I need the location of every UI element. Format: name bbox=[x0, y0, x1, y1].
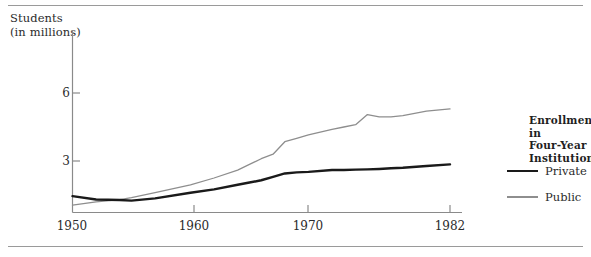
legend-title: Enrollment in Four-Year Institutions bbox=[529, 114, 591, 164]
series-line-public bbox=[73, 109, 451, 205]
legend-swatch-private-icon bbox=[507, 170, 538, 173]
legend-label-public: Public bbox=[545, 190, 581, 204]
series-line-private bbox=[73, 164, 451, 200]
legend-label-private: Private bbox=[545, 164, 587, 178]
plot-area bbox=[0, 0, 591, 257]
legend-swatch-public-icon bbox=[507, 196, 538, 197]
enrollment-chart-figure: Students (in millions) 6 3 1950 1960 197… bbox=[0, 0, 591, 257]
legend: Enrollment in Four-Year Institutions Pri… bbox=[529, 114, 591, 164]
legend-entry-private: Private bbox=[507, 164, 587, 178]
legend-entry-public: Public bbox=[507, 190, 581, 204]
